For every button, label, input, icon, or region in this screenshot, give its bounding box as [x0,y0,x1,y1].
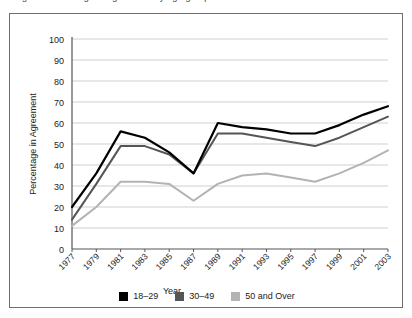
y-tick-label: 30 [54,182,64,192]
y-tick-label: 0 [59,245,64,255]
x-tick-label: 1993 [251,251,272,272]
x-tick-label: 1985 [154,251,175,272]
series-line-18-29 [72,106,388,207]
legend-label: 30–49 [189,292,214,301]
x-tick-label: 1997 [300,251,321,272]
x-tick-label: 1989 [202,251,223,272]
x-tick-label: 1995 [275,251,296,272]
y-tick-label: 50 [54,140,64,150]
clipped-caption: Figure: Percentage in agreement by age g… [0,0,412,11]
clipped-caption-text: Figure: Percentage in agreement by age g… [14,0,251,2]
legend-item[interactable]: 18–29 [119,292,158,301]
x-tick-label: 1983 [129,251,150,272]
chart-legend: 18–2930–4950 and Over [10,292,404,301]
y-tick-label: 20 [54,203,64,213]
y-tick-label: 10 [54,224,64,234]
x-tick-label: 1979 [81,251,102,272]
x-tick-label: 2001 [348,251,369,272]
x-tick-label: 1987 [178,251,199,272]
y-axis-title: Percentage in Agreement [28,93,38,195]
y-tick-label: 40 [54,161,64,171]
legend-label: 50 and Over [245,292,295,301]
x-tick-label: 1991 [227,251,248,272]
legend-swatch-30-49 [175,292,184,301]
y-tick-label: 90 [54,56,64,66]
x-tick-label: 1981 [105,251,126,272]
line-chart-plot: 0102030405060708090100197719791981198319… [10,14,402,307]
legend-swatch-50-over [231,292,240,301]
y-tick-label: 60 [54,119,64,129]
y-tick-label: 70 [54,98,64,108]
chart-frame: 0102030405060708090100197719791981198319… [9,13,403,308]
x-tick-label: 1999 [324,251,345,272]
y-tick-label: 100 [49,35,64,45]
y-tick-label: 80 [54,77,64,87]
legend-label: 18–29 [133,292,158,301]
series-line-50-and-over [72,150,388,226]
chart-figure: Figure: Percentage in agreement by age g… [0,0,412,318]
legend-item[interactable]: 50 and Over [231,292,295,301]
legend-swatch-18-29 [119,292,128,301]
legend-item[interactable]: 30–49 [175,292,214,301]
x-tick-label: 2003 [372,251,393,272]
